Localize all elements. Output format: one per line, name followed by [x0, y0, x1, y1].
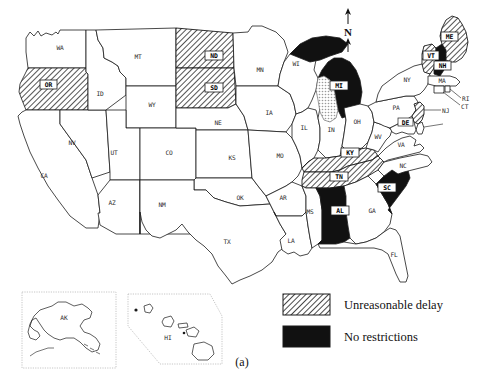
state-shape-WY	[126, 86, 176, 128]
state-shape-MA	[428, 76, 460, 86]
leader-line-DE	[424, 124, 443, 127]
state-shape-NY	[376, 64, 430, 102]
inset-shape-hi-oahu	[162, 316, 174, 327]
figure-root: WA CA NV ID MT WY UT AZ NM CO NE KS OK T…	[0, 0, 483, 386]
state-shape-OR	[19, 68, 88, 110]
state-shape-WA	[26, 30, 86, 68]
state-shape-KS	[196, 130, 252, 180]
legend-swatch-black	[283, 326, 330, 347]
legend-swatch-hatch	[283, 294, 330, 315]
leader-line-RI	[450, 89, 461, 98]
state-shape-SD	[176, 68, 236, 108]
inset-frame-hi	[128, 294, 222, 364]
state-shape-ND	[176, 28, 234, 68]
inset-shape-hi-maui	[186, 327, 199, 337]
state-shape-CO	[140, 128, 196, 180]
state-shape-CT	[434, 86, 444, 93]
state-shape-AZ	[98, 180, 140, 234]
inset-shape-hi-bigisland	[192, 342, 214, 360]
inset-shape-hi-niihau	[134, 308, 137, 311]
inset-shape-hi-kahoolawe	[183, 332, 186, 335]
inset-shape-ak	[28, 302, 100, 352]
state-shape-RI	[445, 86, 450, 92]
us-map-svg	[0, 0, 483, 386]
state-shape-NH	[434, 44, 446, 76]
inset-shape-ak-islands	[84, 344, 100, 354]
inset-shape-hi-molokai	[178, 323, 188, 328]
inset-shape-hi-kauai	[144, 304, 153, 313]
inset-shape-ak-tail	[30, 348, 54, 356]
leader-line-CT	[443, 92, 460, 105]
state-shape-NE	[176, 104, 248, 130]
